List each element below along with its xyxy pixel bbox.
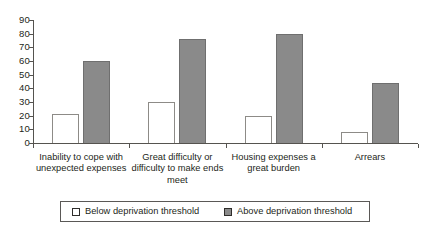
bar-above <box>83 61 110 143</box>
bar-chart: 9080706050403020100 Inability to cope wi… <box>0 0 424 238</box>
x-category-label: Inability to cope with unexpected expens… <box>33 152 129 175</box>
legend-label-below: Below deprivation threshold <box>85 206 199 217</box>
plot-area: 9080706050403020100 <box>0 8 424 150</box>
y-tick-label: 70 <box>0 42 30 52</box>
x-category-label: Great difficulty or difficulty to make e… <box>129 152 225 186</box>
x-tick-mark <box>322 144 323 148</box>
bar-below <box>341 132 368 143</box>
bar-below <box>52 114 79 143</box>
y-tick-label: 10 <box>0 124 30 134</box>
y-tick-mark <box>29 129 33 130</box>
y-tick-label: 50 <box>0 70 30 80</box>
legend-swatch-above-icon <box>224 208 232 216</box>
y-tick-mark <box>29 34 33 35</box>
legend: Below deprivation threshold Above depriv… <box>60 201 370 222</box>
x-tick-mark <box>33 144 34 148</box>
x-tick-mark <box>129 144 130 148</box>
x-axis-category-labels: Inability to cope with unexpected expens… <box>33 152 418 194</box>
y-tick-mark <box>29 20 33 21</box>
x-tick-mark <box>226 144 227 148</box>
y-tick-label: 80 <box>0 29 30 39</box>
y-tick-label: 30 <box>0 97 30 107</box>
y-tick-mark <box>29 61 33 62</box>
bar-above <box>276 34 303 143</box>
x-tick-mark <box>418 144 419 148</box>
bars-layer <box>33 8 418 144</box>
y-tick-mark <box>29 75 33 76</box>
x-category-label: Arrears <box>322 152 418 163</box>
y-tick-label: 40 <box>0 83 30 93</box>
y-axis-tick-labels: 9080706050403020100 <box>0 8 30 150</box>
y-tick-mark <box>29 47 33 48</box>
legend-item-below: Below deprivation threshold <box>72 206 199 217</box>
bar-above <box>179 39 206 143</box>
legend-swatch-below-icon <box>72 208 80 216</box>
bar-below <box>148 102 175 143</box>
y-tick-label: 20 <box>0 111 30 121</box>
y-tick-label: 60 <box>0 56 30 66</box>
y-tick-label: 90 <box>0 15 30 25</box>
bar-above <box>372 83 399 143</box>
x-category-label: Housing expenses a great burden <box>226 152 322 175</box>
legend-item-above: Above deprivation threshold <box>224 206 352 217</box>
legend-label-above: Above deprivation threshold <box>237 206 352 217</box>
y-tick-mark <box>29 88 33 89</box>
y-tick-mark <box>29 116 33 117</box>
bar-below <box>245 116 272 143</box>
y-tick-mark <box>29 102 33 103</box>
y-tick-label: 0 <box>0 138 30 148</box>
